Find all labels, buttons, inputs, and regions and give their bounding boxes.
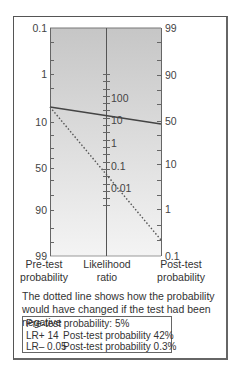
tick-label: 0.01 (111, 182, 131, 194)
tick-label: 1 (41, 68, 47, 80)
tick-label: 90 (35, 204, 47, 216)
summary-box: Pre-test probability: 5% LR+ 14Post-test… (22, 316, 172, 353)
tick-label: 1 (111, 137, 117, 149)
pretest-summary: Pre-test probability: 5% (26, 318, 171, 330)
tick-label: 99 (165, 22, 177, 34)
tick-label: 1 (165, 203, 171, 215)
chart-panel (50, 28, 161, 256)
tick-label: 10 (111, 114, 123, 126)
tick-label: 10 (165, 158, 177, 170)
tick-label: 0.1 (32, 22, 47, 34)
tick-label: 50 (35, 162, 47, 174)
tick-label: 90 (165, 69, 177, 81)
posttest-axis-title: Post-test probability (146, 258, 216, 284)
summary-row-negative: LR– 0.05Post-test probability 0.3% (26, 341, 171, 353)
lr-negative: LR– 0.05 (26, 341, 63, 353)
tick-label: 100 (111, 92, 129, 104)
posttest-positive: Post-test probability 42% (63, 330, 174, 342)
likelihood-axis-title: Likelihood ratio (76, 258, 138, 284)
summary-row-positive: LR+ 14Post-test probability 42% (26, 330, 171, 342)
tick-label: 50 (165, 115, 177, 127)
pretest-axis-title: Pre-test probability (14, 258, 74, 284)
lr-positive: LR+ 14 (26, 330, 63, 342)
tick-label: 10 (35, 116, 47, 128)
tick-label: 0.1 (111, 160, 126, 172)
posttest-negative: Post-test probability 0.3% (63, 341, 176, 353)
